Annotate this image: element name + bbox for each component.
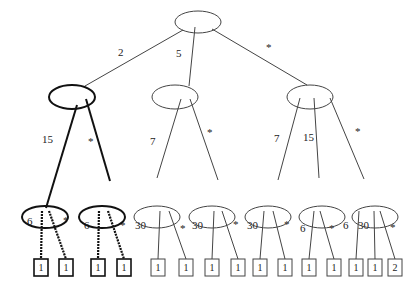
leaf-value: 2 bbox=[393, 262, 398, 273]
edge-label: * bbox=[266, 41, 272, 53]
leaf-value: 1 bbox=[236, 262, 241, 273]
leaf-value: 1 bbox=[373, 262, 378, 273]
leaf-value: 1 bbox=[210, 262, 215, 273]
edge-label: 15 bbox=[303, 131, 315, 143]
tree-node bbox=[245, 206, 291, 228]
root-node bbox=[175, 11, 221, 33]
leaf-value: 1 bbox=[122, 262, 127, 273]
leaf-value: 1 bbox=[64, 262, 69, 273]
leaf-value: 1 bbox=[258, 262, 263, 273]
edge-label: 15 bbox=[42, 133, 54, 145]
leaf-value: 1 bbox=[354, 262, 359, 273]
edge-label: 30 bbox=[192, 219, 204, 231]
tree-edge bbox=[158, 211, 160, 259]
tree-edge bbox=[314, 98, 319, 178]
edge-label: 2 bbox=[118, 46, 124, 58]
tree-node bbox=[287, 85, 333, 109]
tree-edge bbox=[320, 211, 334, 259]
leaf-value: 1 bbox=[39, 262, 44, 273]
tree-node bbox=[49, 85, 95, 109]
edge-label: * bbox=[207, 126, 213, 138]
leaf-value: 1 bbox=[156, 262, 161, 273]
tree-edge bbox=[98, 211, 99, 259]
leaf-value: 1 bbox=[96, 262, 101, 273]
tree-edge bbox=[374, 211, 375, 259]
tree-node bbox=[189, 206, 235, 228]
tree-edge bbox=[41, 211, 42, 259]
edge-label: * bbox=[88, 135, 94, 147]
leaf-value: 1 bbox=[307, 262, 312, 273]
edge-label: 5 bbox=[176, 47, 182, 59]
edge-label: 7 bbox=[274, 132, 280, 144]
tree-edge bbox=[189, 27, 195, 86]
tree-node bbox=[134, 206, 180, 228]
tree-edge bbox=[260, 211, 264, 259]
leaf-value: 1 bbox=[283, 262, 288, 273]
tree-edge bbox=[330, 98, 364, 179]
tree-node bbox=[79, 206, 125, 228]
tree-node bbox=[152, 85, 198, 109]
tree-edge bbox=[212, 29, 307, 85]
tree-edge bbox=[46, 105, 77, 208]
tree-edge bbox=[169, 211, 186, 259]
tree-edge bbox=[309, 211, 314, 259]
tree-edge bbox=[380, 211, 395, 259]
tree-edge bbox=[85, 30, 183, 86]
leaf-value: 1 bbox=[332, 262, 337, 273]
tree-edge bbox=[190, 99, 218, 180]
tree-edge bbox=[278, 98, 300, 180]
edge-label: * bbox=[180, 222, 186, 234]
tree-edge bbox=[157, 99, 181, 178]
edge-label: * bbox=[355, 125, 361, 137]
tree-diagram: 25*15*7*715*6*6*30*30*30*6*630*111111111… bbox=[0, 0, 416, 292]
leaf-value: 1 bbox=[184, 262, 189, 273]
tree-edge bbox=[212, 211, 214, 259]
edge-label: * bbox=[329, 222, 335, 234]
edge-label: 7 bbox=[150, 135, 156, 147]
